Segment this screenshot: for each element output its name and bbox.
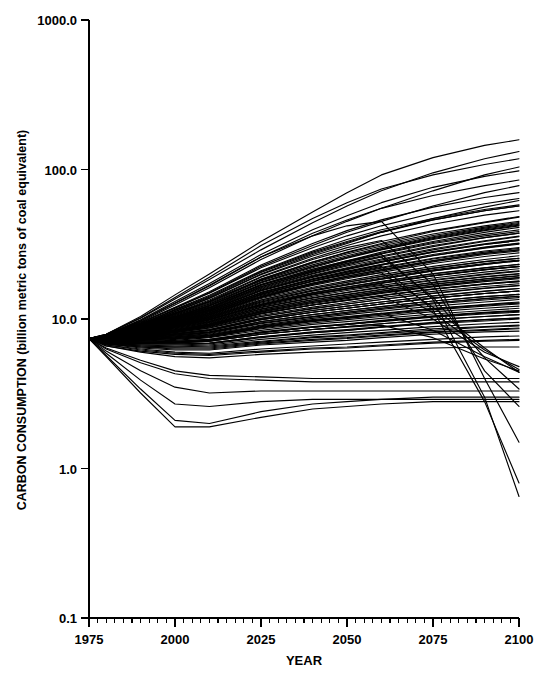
x-axis-tick-label: 2000 (161, 632, 190, 647)
x-axis-tick-label: 2050 (333, 632, 362, 647)
y-axis-title: CARBON CONSUMPTION (billion metric tons … (15, 130, 29, 511)
x-axis-tick-label: 2075 (419, 632, 448, 647)
y-axis-tick-label: 100.0 (44, 163, 77, 178)
x-axis-tick-label: 1975 (75, 632, 104, 647)
scenario-lines-group (89, 140, 519, 497)
y-axis-tick-label: 10.0 (52, 312, 77, 327)
y-axis-ticks-group: 1000.0100.010.01.00.1 (37, 13, 89, 626)
x-axis-tick-label: 2025 (247, 632, 276, 647)
carbon-consumption-chart: 1000.0100.010.01.00.1 197520002025205020… (0, 0, 543, 677)
x-axis-title: YEAR (286, 653, 323, 668)
y-axis-tick-label: 1.0 (59, 462, 77, 477)
x-axis-tick-label: 2100 (505, 632, 534, 647)
x-axis-ticks-group: 197520002025205020752100 (75, 618, 534, 647)
chart-svg: 1000.0100.010.01.00.1 197520002025205020… (0, 0, 543, 677)
y-axis-tick-label: 1000.0 (37, 13, 77, 28)
y-axis-tick-label: 0.1 (59, 611, 77, 626)
